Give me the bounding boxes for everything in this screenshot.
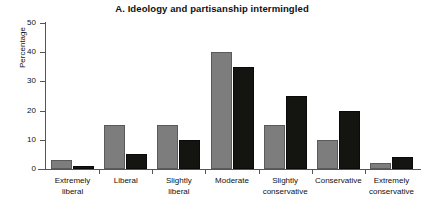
bar-series-gray-1: [104, 125, 125, 169]
x-axis-separator-6: [365, 169, 366, 174]
x-axis-separator-2: [152, 169, 153, 174]
bar-series-gray-4: [264, 125, 285, 169]
bar-series-dark-0: [73, 166, 94, 169]
plot-area: [46, 23, 418, 169]
x-axis-separator-3: [205, 169, 206, 174]
chart-title: A. Ideology and partisanship intermingle…: [0, 3, 424, 14]
x-axis-separator-1: [99, 169, 100, 174]
x-axis-line: [38, 169, 421, 170]
bar-series-gray-3: [211, 52, 232, 169]
y-tick-label-10: 10: [12, 136, 36, 144]
bar-series-dark-3: [233, 67, 254, 169]
x-category-label-6: Extremelyconservative: [359, 176, 424, 197]
y-tick-label-50: 50: [12, 19, 36, 27]
x-axis-separator-5: [312, 169, 313, 174]
y-tick-label-0: 0: [12, 165, 36, 173]
y-tick-label-30: 30: [12, 77, 36, 85]
bar-series-dark-2: [179, 140, 200, 169]
y-tick-label-20: 20: [12, 107, 36, 115]
bar-series-dark-4: [286, 96, 307, 169]
bar-series-gray-2: [157, 125, 178, 169]
bar-series-dark-1: [126, 154, 147, 169]
bar-series-gray-0: [51, 160, 72, 169]
bar-series-dark-6: [392, 157, 413, 169]
y-tick-mark-0: [40, 169, 46, 170]
y-tick-label-40: 40: [12, 48, 36, 56]
chart-figure: A. Ideology and partisanship intermingle…: [0, 0, 424, 219]
x-axis-separator-4: [259, 169, 260, 174]
bar-series-gray-5: [317, 140, 338, 169]
bar-series-dark-5: [339, 111, 360, 169]
bar-series-gray-6: [370, 163, 391, 169]
